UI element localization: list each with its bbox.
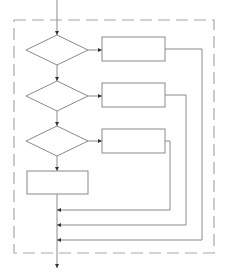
- arrowhead-down-icon: [55, 167, 59, 171]
- arrowhead-down-icon: [55, 122, 59, 126]
- arrowhead-right-icon: [98, 94, 102, 98]
- arrowhead-left-icon: [57, 238, 61, 242]
- arrowhead-left-icon: [57, 223, 61, 227]
- arrowhead-down-icon: [55, 77, 59, 81]
- arrowhead-right-icon: [98, 48, 102, 52]
- flowchart-canvas: [0, 0, 230, 280]
- return-path-2: [57, 95, 186, 225]
- decision-diamond-3[interactable]: [26, 126, 88, 156]
- flowchart-svg: [0, 0, 230, 280]
- process-box-3[interactable]: [102, 129, 165, 153]
- process-box-1[interactable]: [102, 37, 165, 61]
- arrowhead-down-icon: [55, 264, 59, 268]
- arrowhead-down-icon: [55, 31, 59, 35]
- arrowhead-right-icon: [98, 139, 102, 143]
- process-box-2[interactable]: [102, 83, 165, 107]
- arrowhead-left-icon: [57, 208, 61, 212]
- process-box-default[interactable]: [27, 171, 88, 194]
- decision-diamond-1[interactable]: [26, 35, 88, 65]
- decision-diamond-2[interactable]: [26, 81, 88, 111]
